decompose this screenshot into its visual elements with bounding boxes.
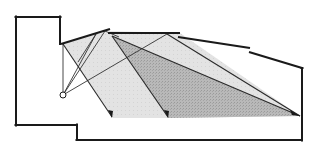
sound-source-icon (60, 92, 66, 98)
acoustic-ray-diagram (0, 0, 328, 153)
reflector-panel-4 (249, 52, 302, 68)
